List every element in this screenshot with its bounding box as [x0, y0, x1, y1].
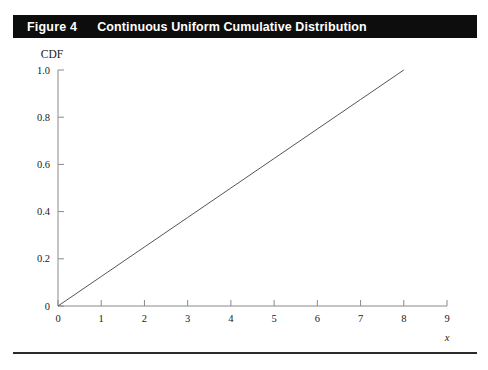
y-axis-tick-label: 0 [45, 301, 50, 312]
x-axis-tick-label: 0 [55, 313, 60, 324]
x-axis-tick-label: 4 [228, 313, 234, 324]
y-axis-group: 00.20.40.60.81.0 CDF [37, 48, 64, 312]
x-axis-tick-label: 5 [271, 313, 276, 324]
y-axis-tick-label: 0.6 [37, 159, 50, 170]
y-axis-tick-labels: 00.20.40.60.81.0 [37, 65, 51, 312]
y-axis-tick-label: 0.4 [37, 206, 51, 217]
x-axis-group: 0123456789 x [55, 300, 449, 343]
x-axis-tick-label: 6 [315, 313, 320, 324]
x-axis-title: x [444, 332, 450, 343]
x-axis-tick-label: 1 [99, 313, 104, 324]
chart-plot-area: 00.20.40.60.81.0 CDF 0123456789 x [0, 0, 488, 370]
x-axis-tick-label: 2 [142, 313, 147, 324]
y-axis-ticks [58, 70, 64, 306]
y-axis-title: CDF [41, 48, 63, 60]
x-axis-tick-label: 9 [444, 313, 449, 324]
y-axis-tick-label: 0.8 [37, 112, 50, 123]
x-axis-ticks [58, 300, 447, 306]
x-axis-tick-label: 7 [358, 313, 363, 324]
y-axis-tick-label: 1.0 [37, 65, 50, 76]
x-axis-tick-labels: 0123456789 [55, 313, 449, 324]
figure-container: Figure 4 Continuous Uniform Cumulative D… [0, 0, 488, 370]
y-axis-tick-label: 0.2 [37, 253, 50, 264]
cdf-line-chart: 00.20.40.60.81.0 CDF 0123456789 x [0, 0, 488, 370]
cdf-series-line [58, 70, 404, 306]
x-axis-tick-label: 3 [185, 313, 190, 324]
x-axis-tick-label: 8 [401, 313, 406, 324]
bottom-divider-rule [13, 352, 477, 354]
data-series-group [58, 70, 404, 306]
